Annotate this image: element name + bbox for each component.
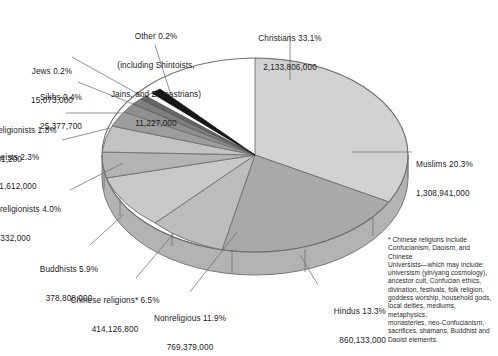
label-christians-count: 2,133,806,000 bbox=[225, 63, 355, 73]
leader-buddhists bbox=[90, 214, 124, 245]
label-jews-count: 15,073,000 bbox=[8, 96, 96, 106]
label-other-name: Other 0.2% bbox=[86, 32, 226, 42]
label-jews-name: Jews 0.2% bbox=[8, 67, 96, 77]
label-ethnoreligionists-count: 256,332,000 bbox=[0, 234, 88, 244]
label-other-line3: Jains, and Zoroastrians) bbox=[86, 90, 226, 100]
label-buddhists-count: 378,808,000 bbox=[14, 294, 124, 304]
label-buddhists-name: Buddhists 5.9% bbox=[14, 265, 124, 275]
label-hindus: Hindus 13.3% 860,133,000 bbox=[262, 288, 386, 356]
label-jews: Jews 0.2% 15,073,000 bbox=[8, 48, 96, 125]
label-other-line2: (including Shintoists, bbox=[86, 61, 226, 71]
label-chinese-religions-count: 414,126,800 bbox=[48, 325, 182, 335]
label-muslims: Muslims 20.3% 1,308,941,000 bbox=[416, 141, 498, 218]
label-other-religionists-count: 115,781,200 bbox=[0, 155, 84, 165]
footnote-chinese-religions: * Chinese religions include Confucianism… bbox=[388, 236, 494, 344]
label-other-count: 11,227,000 bbox=[86, 119, 226, 129]
label-christians-name: Christians 33.1% bbox=[225, 34, 355, 44]
label-christians: Christians 33.1% 2,133,806,000 bbox=[225, 15, 355, 92]
label-hindus-count: 860,133,000 bbox=[262, 336, 386, 346]
label-muslims-count: 1,308,941,000 bbox=[416, 189, 498, 199]
label-muslims-name: Muslims 20.3% bbox=[416, 160, 498, 170]
label-other: Other 0.2% (including Shintoists, Jains,… bbox=[86, 13, 226, 147]
label-hindus-name: Hindus 13.3% bbox=[262, 307, 386, 317]
